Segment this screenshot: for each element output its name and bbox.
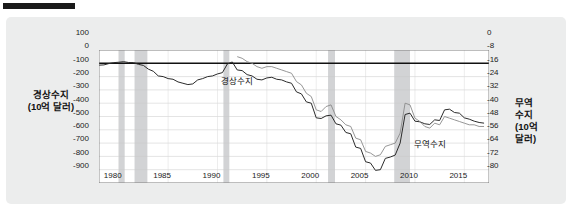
y2-axis-tick-label: -56 — [487, 121, 517, 130]
figure-root: 경상수지 (10억 달러) 무역 수지 (10억 달러) 1000-100-20… — [0, 0, 572, 210]
y2-axis-tick-label: -8 — [487, 41, 517, 50]
y2-axis-tick-label: -72 — [487, 148, 517, 157]
x-axis-tick-label: 2015 — [442, 171, 474, 180]
y-axis-tick-label: -400 — [51, 95, 89, 104]
y2-axis-tick-label: -80 — [487, 161, 517, 170]
y2-axis-tick-label: -48 — [487, 108, 517, 117]
y2-axis-tick-label: 0 — [487, 28, 517, 37]
x-axis-tick-label: 1990 — [195, 171, 227, 180]
plot-area — [99, 50, 489, 183]
x-axis-tick-label: 2010 — [393, 171, 425, 180]
y-axis-tick-label: 0 — [51, 41, 89, 50]
right-axis-title-line2: 수지 — [515, 109, 571, 121]
redacted-title-bar — [3, 3, 75, 9]
y-axis-tick-label: -700 — [51, 134, 89, 143]
x-axis-tick-label: 2005 — [344, 171, 376, 180]
x-axis-tick-label: 1980 — [97, 171, 129, 180]
y-axis-tick-label: 100 — [51, 28, 89, 37]
y-axis-tick-label: -800 — [51, 148, 89, 157]
x-axis-tick-label: 1985 — [146, 171, 178, 180]
y2-axis-tick-label: -64 — [487, 134, 517, 143]
y-axis-tick-label: -600 — [51, 121, 89, 130]
y-axis-tick-label: -100 — [51, 55, 89, 64]
right-axis-title-line1: 무역 — [515, 97, 571, 109]
y-axis-tick-label: -900 — [51, 161, 89, 170]
y-axis-tick-label: -300 — [51, 81, 89, 90]
series-label-current-account: 경상수지 — [221, 74, 253, 86]
chart-svg — [99, 50, 489, 183]
x-axis-tick-label: 1995 — [245, 171, 277, 180]
x-axis-tick-label: 2000 — [294, 171, 326, 180]
right-axis-title: 무역 수지 (10억 달러) — [515, 97, 571, 145]
y2-axis-tick-label: -24 — [487, 68, 517, 77]
y2-axis-tick-label: -32 — [487, 81, 517, 90]
chart-panel: 경상수지 (10억 달러) 무역 수지 (10억 달러) 1000-100-20… — [6, 17, 566, 204]
y2-axis-tick-label: -40 — [487, 95, 517, 104]
right-axis-title-line3: (10억 — [515, 121, 571, 133]
y2-axis-tick-label: -16 — [487, 55, 517, 64]
series-label-trade-balance: 무역수지 — [414, 137, 446, 149]
y-axis-tick-label: -200 — [51, 68, 89, 77]
right-axis-title-line4: 달러) — [515, 133, 571, 145]
y-axis-tick-label: -500 — [51, 108, 89, 117]
